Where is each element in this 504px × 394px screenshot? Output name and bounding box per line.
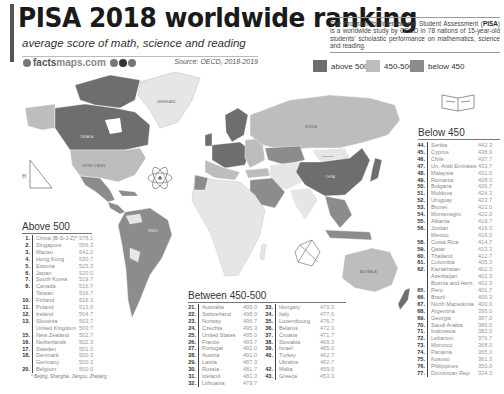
rank: 33. (264, 304, 276, 311)
country-name: Switzerland (199, 311, 243, 318)
table-row: 25.United States495.0 (187, 332, 261, 339)
footnote: * Beijing, Shanghai, Jiangsu, Zhejiang (31, 374, 107, 379)
table-row: 68.Argentina395.0 (416, 308, 496, 315)
rank (21, 325, 33, 332)
score: 493.7 (243, 339, 261, 346)
rank: 50. (416, 183, 428, 190)
country-name: Morocco (428, 342, 478, 349)
table-row: 39.Israel465.0 (264, 345, 338, 352)
rank: 18. (21, 352, 33, 359)
country-new-zealand (398, 288, 410, 310)
table-row: Mexico416.0 (416, 232, 496, 239)
rank (416, 273, 428, 280)
rank: 6. (21, 270, 33, 277)
score: 405.3 (478, 259, 496, 266)
score: 503.7 (79, 318, 95, 325)
country-name: Chile (428, 156, 478, 163)
rank: 45. (416, 149, 428, 156)
country-name: Costa Rica (428, 239, 478, 246)
table-row: 50.Bulgaria426.7 (416, 183, 496, 190)
score: 361.3 (478, 356, 496, 363)
svg-text:H: H (22, 173, 27, 179)
brand-name-light: maps.com (56, 57, 105, 68)
rank: 24. (187, 325, 199, 332)
score: 416.0 (478, 232, 496, 239)
country-name: Finland (33, 297, 79, 304)
rank: 56. (416, 225, 428, 232)
score: 412.7 (478, 253, 496, 260)
rank: 30. (187, 366, 199, 373)
table-row: 8.Canada516.7 (21, 283, 95, 290)
score: 453.3 (320, 373, 338, 380)
country-name: Hungary (276, 304, 320, 311)
country-name: Greece (276, 373, 320, 380)
score: 492.0 (243, 345, 261, 352)
table-row: 6.Japan520.0 (21, 270, 95, 277)
table-row: 37.Croatia471.7 (264, 332, 338, 339)
score: 502.3 (79, 339, 95, 346)
score: 395.0 (478, 308, 496, 315)
brand-logo: factsmaps.com (22, 57, 136, 68)
score: 525.3 (79, 263, 95, 270)
rank: 4. (21, 256, 33, 263)
twitter-icon[interactable] (119, 59, 127, 67)
region-central-america (108, 202, 125, 214)
rank: 3. (21, 249, 33, 256)
rank: 13. (21, 318, 33, 325)
rank: 1. (21, 235, 33, 242)
table-row: 70.Saudi Arabia386.0 (416, 322, 496, 329)
score: 402.3 (478, 280, 496, 287)
table-row: 12.Ireland504.7 (21, 311, 95, 318)
rank: 29. (187, 359, 199, 366)
facebook-icon[interactable] (110, 59, 118, 67)
table-row: 31.Iceland481.3 (187, 373, 261, 380)
table-row: 32.Lithuania479.7 (187, 380, 261, 387)
table-row: 43.Greece453.3 (264, 373, 338, 380)
score: 479.3 (320, 304, 338, 311)
country-name: Hong Kong (33, 256, 79, 263)
country-name: Dominican Rep. (428, 370, 478, 377)
rank: 72. (416, 335, 428, 342)
score: 462.7 (320, 359, 338, 366)
table-row: 4.Hong Kong530.7 (21, 256, 95, 263)
svg-text:CHINA: CHINA (325, 175, 336, 179)
rank: 54. (416, 211, 428, 218)
rank: 28. (187, 352, 199, 359)
table-row: 46.Chile437.7 (416, 156, 496, 163)
country-name: Austria (199, 352, 243, 359)
rank: 74. (416, 349, 428, 356)
country-name: Singapore (33, 242, 79, 249)
table-row: 21.Australia499.0 (187, 304, 261, 311)
country-name: Japan (33, 270, 79, 277)
table-row: 56.Jordan416.0 (416, 225, 496, 232)
score: 498.0 (243, 311, 261, 318)
rank (21, 290, 33, 297)
score: 542.2 (79, 249, 95, 256)
score: 401.7 (478, 287, 496, 294)
country-name: Belgium (33, 366, 79, 373)
rank: 38. (264, 339, 276, 346)
table-row: 1.China (B-S-J-Z)*578.1 (21, 235, 95, 242)
table-row: 36.Belarus472.3 (264, 325, 338, 332)
table-row: 47.Un. Arab Emirates433.7 (416, 163, 496, 170)
score: 414.7 (478, 239, 496, 246)
country-name: Panama (428, 349, 478, 356)
table-row: 69.Georgia387.0 (416, 315, 496, 322)
table-row: 35.Luxembourg476.7 (264, 318, 338, 325)
table-row: 34.Italy477.0 (264, 311, 338, 318)
rank: 47. (416, 163, 428, 170)
table-row: 29.Latvia487.3 (187, 359, 261, 366)
score: 423.0 (478, 204, 496, 211)
table-row: 20.Belgium500.0 (21, 366, 95, 373)
country-name: Jordan (428, 225, 478, 232)
rank (416, 232, 428, 239)
country-name: Montenegro (428, 211, 478, 218)
rank: 69. (416, 315, 428, 322)
rank: 59. (416, 246, 428, 253)
rank: 46. (416, 156, 428, 163)
country-name: Canada (33, 283, 79, 290)
country-name: Luxembourg (276, 318, 320, 325)
instagram-icon[interactable] (128, 59, 136, 67)
table-row: 7.South Korea519.7 (21, 276, 95, 283)
compass-geometry-icon (295, 240, 320, 266)
